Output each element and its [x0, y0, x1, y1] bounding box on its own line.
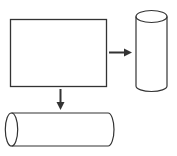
arrow-down-icon: [57, 89, 65, 110]
arrow-right-icon: [109, 49, 132, 57]
horizontal-cylinder: [5, 113, 114, 146]
diagram-canvas: [0, 0, 177, 156]
vertical-cylinder: [136, 11, 167, 92]
sheet-rectangle: [11, 20, 107, 87]
diagram-svg: [0, 0, 177, 156]
